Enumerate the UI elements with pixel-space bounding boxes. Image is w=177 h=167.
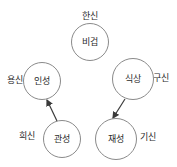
side-label-text: 한신 <box>82 11 99 21</box>
node-gwanseong[interactable]: 관성 <box>43 120 81 158</box>
node-label: 식상 <box>125 75 142 84</box>
node-bigyeop[interactable]: 비겁 <box>71 23 109 61</box>
node-siksang[interactable]: 식상 <box>112 58 154 100</box>
side-label-huisin: 희신 <box>19 132 36 141</box>
side-label-yongsin: 용신 <box>7 76 24 85</box>
arrow-siksang-to-jaeseong <box>113 99 125 118</box>
side-label-gusin: 구신 <box>153 74 170 83</box>
side-label-text: 구신 <box>153 73 170 83</box>
node-inseong[interactable]: 인성 <box>23 62 61 100</box>
arrow-gwanseong-to-inseong <box>47 100 57 121</box>
node-jaeseong[interactable]: 재성 <box>95 118 137 160</box>
node-label: 재성 <box>108 135 125 144</box>
node-label: 관성 <box>54 135 71 144</box>
side-label-text: 기신 <box>140 132 157 142</box>
node-label: 인성 <box>34 77 51 86</box>
side-label-text: 용신 <box>7 75 24 85</box>
side-label-gisin: 기신 <box>140 133 157 142</box>
diagram-canvas: 한신 용신 구신 희신 기신 비겁 인성 식상 관성 재성 <box>0 0 177 167</box>
side-label-text: 희신 <box>19 131 36 141</box>
node-label: 비겁 <box>82 38 99 47</box>
side-label-hansin: 한신 <box>82 12 99 21</box>
